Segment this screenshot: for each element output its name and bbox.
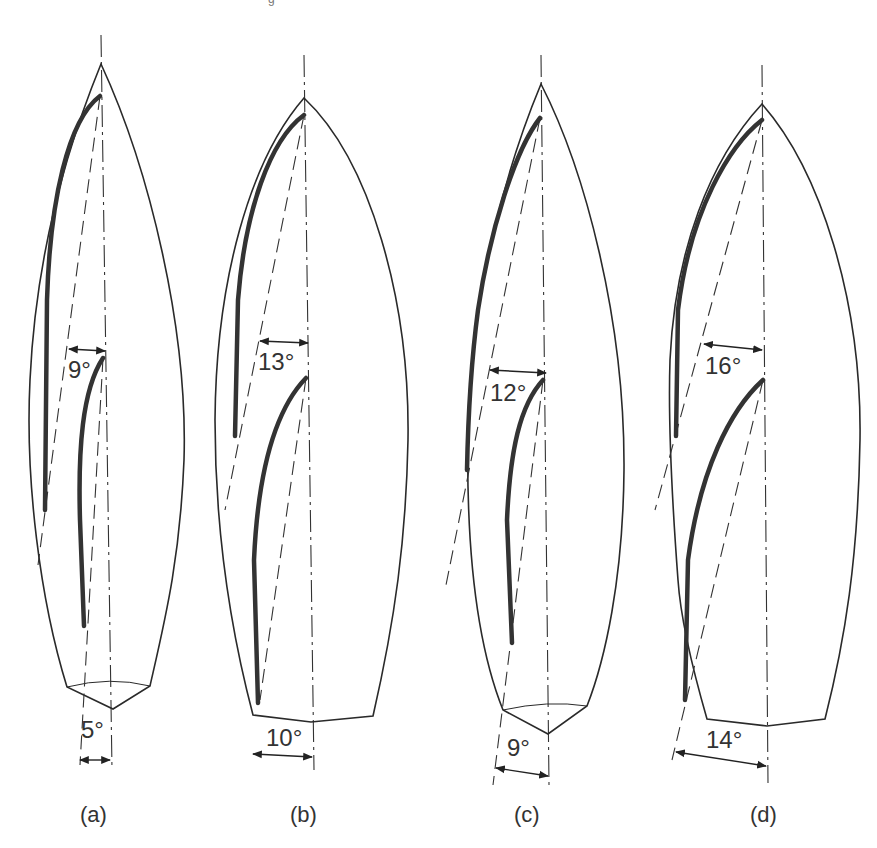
caption-a: (a): [80, 804, 107, 826]
centerline-a: [101, 35, 112, 770]
angle-arrow-c-top: [490, 370, 546, 373]
centerline-d: [762, 65, 768, 783]
jib-a: [80, 358, 103, 626]
mainsail-a: [45, 96, 100, 510]
keel-angle-label-d: 14°: [706, 728, 742, 752]
angle-arrow-b-bottom: [253, 754, 312, 757]
keel-line-b: [260, 378, 306, 700]
caption-b: (b): [290, 804, 317, 826]
angle-arrow-c-bottom: [496, 768, 548, 776]
sail-angle-label-b: 13°: [258, 350, 294, 374]
panel-b: [215, 55, 408, 770]
sail-angle-diagram: [0, 0, 877, 848]
angle-arrow-b-top: [260, 341, 308, 343]
panel-c: [446, 55, 624, 785]
sail-angle-label-c: 12°: [490, 381, 526, 405]
keel-angle-label-c: 9°: [507, 736, 530, 760]
sail-angle-label-a: 9°: [68, 358, 91, 382]
caption-c: (c): [514, 804, 540, 826]
jib-c: [507, 380, 543, 643]
angle-arrow-a-top: [69, 349, 105, 351]
panel-d: [655, 65, 860, 783]
panel-a: [29, 35, 184, 770]
jib-b: [254, 378, 306, 703]
centerline-c: [541, 55, 549, 785]
centerline-b: [304, 55, 314, 770]
sail-angle-label-d: 16°: [705, 354, 741, 378]
keel-angle-label-b: 10°: [266, 726, 302, 750]
angle-arrow-d-top: [704, 344, 762, 350]
mainsail-b: [235, 115, 304, 436]
caption-d: (d): [750, 804, 777, 826]
keel-angle-label-a: 5°: [81, 718, 104, 742]
angle-arrow-d-bottom: [676, 752, 766, 766]
hull-c: [468, 84, 624, 734]
